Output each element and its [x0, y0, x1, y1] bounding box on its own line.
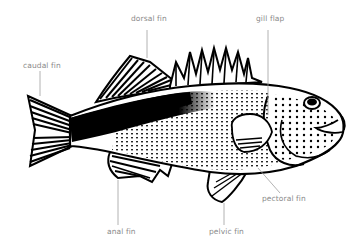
fish-diagram: dorsal fin gill flap caudal fin pectoral… — [0, 0, 358, 249]
fish-illustration — [0, 0, 358, 249]
label-gill-flap: gill flap — [256, 14, 284, 23]
label-dorsal-fin: dorsal fin — [131, 14, 167, 23]
caudal-fin-shape — [28, 96, 72, 166]
label-pelvic-fin: pelvic fin — [209, 227, 244, 236]
label-pectoral-fin: pectoral fin — [262, 194, 306, 203]
label-anal-fin: anal fin — [107, 227, 136, 236]
label-caudal-fin: caudal fin — [23, 61, 61, 70]
